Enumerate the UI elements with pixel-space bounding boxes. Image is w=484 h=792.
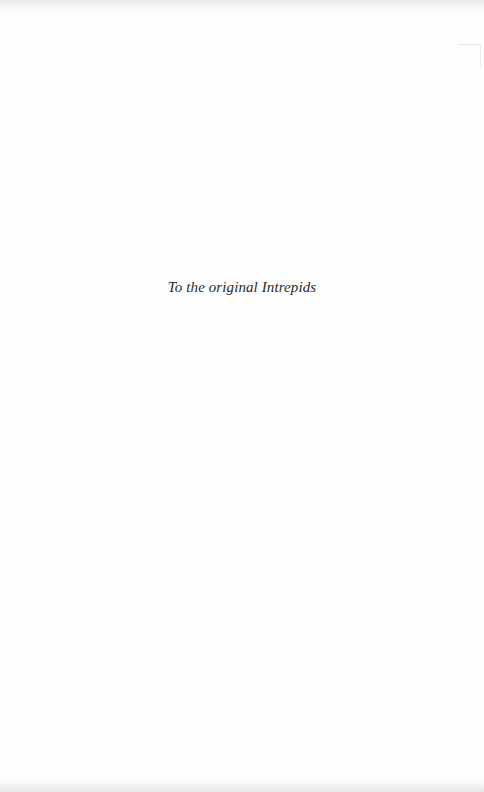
dedication-text: To the original Intrepids [0, 279, 484, 296]
scan-edge-bottom [0, 782, 484, 792]
book-page: To the original Intrepids [0, 0, 484, 792]
scan-edge-top [0, 0, 484, 8]
scan-artifact [458, 44, 481, 67]
